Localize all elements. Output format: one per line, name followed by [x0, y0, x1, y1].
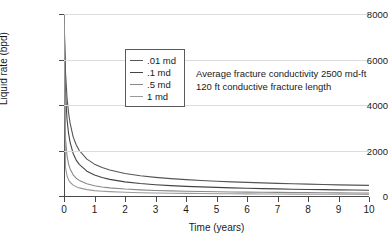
legend-swatch-line-icon: [130, 96, 143, 97]
legend-swatch-line-icon: [130, 60, 143, 61]
x-tick-label: 2: [122, 204, 128, 215]
gridline: [64, 151, 369, 152]
x-tick: [125, 197, 126, 202]
x-tick: [308, 197, 309, 202]
x-tick: [156, 197, 157, 202]
legend-label: .5 md: [147, 79, 171, 90]
y-tick: [59, 105, 64, 106]
x-tick: [95, 197, 96, 202]
x-tick-label: 8: [305, 204, 311, 215]
y-tick: [59, 60, 64, 61]
legend-swatch-line-icon: [130, 72, 143, 73]
y-axis-label: Liquid rate (bpd): [0, 32, 9, 105]
plot-area: [64, 14, 369, 196]
curve--1-md: [64, 14, 369, 190]
y-tick: [59, 151, 64, 152]
x-tick-label: 10: [363, 204, 374, 215]
x-tick: [369, 197, 370, 202]
x-axis-label: Time (years): [64, 222, 369, 233]
gridline: [64, 14, 369, 15]
x-tick: [186, 197, 187, 202]
curve--01-md: [64, 14, 369, 185]
gridline: [64, 105, 369, 106]
x-tick: [278, 197, 279, 202]
x-tick: [217, 197, 218, 202]
y-tick: [59, 14, 64, 15]
x-tick: [64, 197, 65, 202]
gridline: [64, 60, 369, 61]
x-tick-label: 4: [183, 204, 189, 215]
legend-item: .1 md: [130, 66, 179, 78]
legend-swatch-line-icon: [130, 84, 143, 85]
y-tick-label: 8000: [333, 9, 388, 20]
y-tick-label: 2000: [333, 145, 388, 156]
x-tick-label: 5: [214, 204, 220, 215]
x-tick: [247, 197, 248, 202]
x-tick-label: 0: [61, 204, 67, 215]
legend-item: 1 md: [130, 90, 179, 102]
annotation-line: Average fracture conductivity 2500 md-ft: [196, 68, 366, 81]
curve--5-md: [64, 14, 369, 193]
annotation-line: 120 ft conductive fracture length: [196, 81, 366, 94]
legend-label: .1 md: [147, 67, 171, 78]
x-tick: [339, 197, 340, 202]
legend-label: .01 md: [147, 55, 176, 66]
chart-container: Liquid rate (bpd) 02000400060008000 0123…: [0, 0, 388, 245]
x-tick-label: 7: [275, 204, 281, 215]
x-tick-label: 3: [153, 204, 159, 215]
y-tick-label: 6000: [333, 54, 388, 65]
legend-label: 1 md: [147, 91, 168, 102]
legend-item: .01 md: [130, 54, 179, 66]
x-tick-label: 1: [92, 204, 98, 215]
x-tick-label: 6: [244, 204, 250, 215]
y-tick-label: 0: [333, 191, 388, 202]
legend-item: .5 md: [130, 78, 179, 90]
x-tick-label: 9: [336, 204, 342, 215]
chart-annotation: Average fracture conductivity 2500 md-ft…: [196, 68, 366, 93]
chart-legend: .01 md.1 md.5 md1 md: [125, 49, 185, 107]
y-tick-label: 4000: [333, 100, 388, 111]
